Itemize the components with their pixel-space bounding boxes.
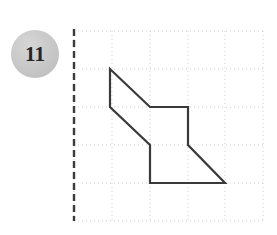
reflection-shape-polygon bbox=[110, 69, 225, 183]
grid-lines bbox=[74, 31, 263, 221]
worksheet-page: 11 bbox=[0, 0, 277, 235]
figure-canvas bbox=[0, 0, 277, 235]
